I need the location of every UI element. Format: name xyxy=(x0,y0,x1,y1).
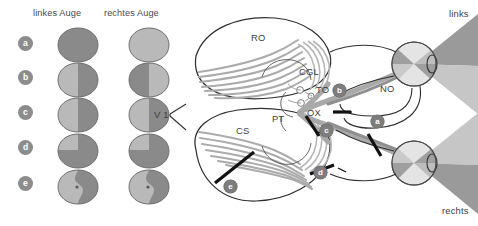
figure-root: linkes Auge rechtes Auge document.queryS… xyxy=(0,0,478,226)
side-label-bottom: rechts xyxy=(442,205,469,216)
lesion-marker-d: d xyxy=(314,166,327,179)
lesion-marker-e: e xyxy=(224,180,237,193)
v1-leader-lines xyxy=(170,104,186,130)
lesion-marker-b: b xyxy=(333,84,346,97)
lesion-marker-c: c xyxy=(320,124,333,137)
label-CS: CS xyxy=(236,125,249,136)
label-V1: V 1 xyxy=(154,109,169,120)
lesion-marker-a: a xyxy=(371,115,384,128)
side-label-top: links xyxy=(449,8,469,19)
eye-right-inferior xyxy=(392,141,437,185)
label-OX: OX xyxy=(307,107,321,118)
label-NO: NO xyxy=(380,83,394,94)
label-PT: PT xyxy=(272,113,284,124)
label-CGL: CGL xyxy=(299,66,319,77)
label-RO: RO xyxy=(251,32,265,43)
eye-left-superior xyxy=(392,42,437,86)
label-TO: TO xyxy=(316,84,329,95)
visual-pathway-illustration xyxy=(0,0,478,226)
